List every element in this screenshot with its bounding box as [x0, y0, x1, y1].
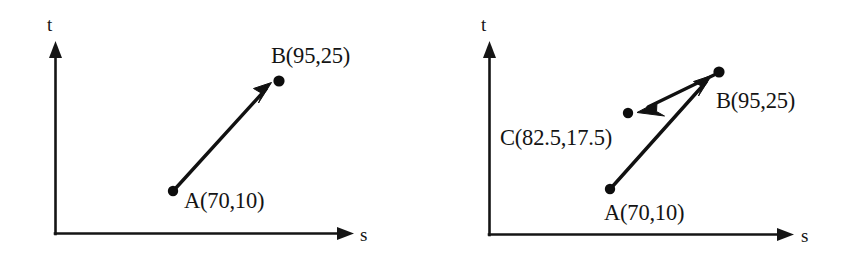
right-point-b-label: B(95,25)	[716, 88, 795, 113]
right-point-a-dot	[605, 184, 615, 194]
right-s-axis-arrowhead	[777, 228, 794, 241]
right-s-axis-label: s	[801, 225, 808, 246]
right-vector-b-to-c-shaft	[648, 75, 714, 107]
left-s-axis-label: s	[360, 224, 367, 245]
right-panel: t s A(70,10) B(95,25) C(82.5,17.5)	[481, 14, 808, 246]
right-vector-a-to-b-shaft	[612, 82, 706, 187]
vector-diagrams-svg: t s A(70,10) B(95,25) t s	[0, 0, 851, 258]
left-t-axis-arrowhead	[49, 41, 62, 58]
left-point-a-label: A(70,10)	[184, 188, 264, 213]
right-t-axis-label: t	[481, 14, 487, 35]
left-point-b-dot	[273, 75, 284, 86]
left-s-axis-arrowhead	[337, 227, 354, 240]
right-point-c-dot	[623, 108, 633, 118]
right-point-a-label: A(70,10)	[604, 200, 684, 225]
figure-root: t s A(70,10) B(95,25) t s	[0, 0, 851, 258]
left-t-axis-label: t	[47, 14, 53, 35]
left-point-a-dot	[168, 186, 178, 196]
right-point-b-dot	[713, 66, 724, 77]
right-point-c-label: C(82.5,17.5)	[500, 125, 612, 150]
left-panel: t s A(70,10) B(95,25)	[47, 14, 367, 245]
right-t-axis-arrowhead	[483, 41, 496, 58]
left-point-b-label: B(95,25)	[271, 43, 350, 68]
left-vector-a-to-b-shaft	[175, 89, 266, 189]
